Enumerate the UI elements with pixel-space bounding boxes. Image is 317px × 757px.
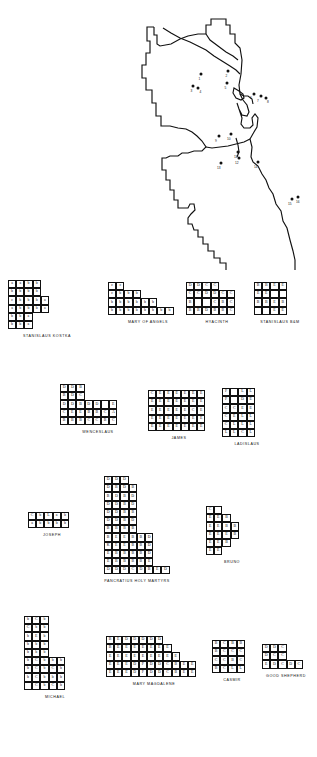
grid-cell: B [85,409,93,417]
grid-cell: E [270,282,278,290]
grid-cell: L [238,388,246,396]
grid-cell: E [206,522,214,530]
grid-cell: b [16,313,24,321]
grid-cell: B [112,525,120,533]
grid-cell: b [32,649,40,657]
parish-diagram-label: STANISLAUS B&M [253,320,306,324]
grid-cell: b [40,657,48,665]
grid-cell: C [212,656,220,664]
grid-cell: b [24,649,32,657]
grid-cell: B [219,298,227,306]
parish-diagram-label: MARY OF ANGELS [107,320,189,324]
grid-cell: b [36,512,44,520]
grid-cell: B [228,640,236,648]
grid-cell: B [137,550,145,558]
parish-diagram-label: CASMIR [212,678,253,682]
grid-cell: b [24,296,32,304]
parish-grid-mary-magdalene: BEDDDDDBEEEEEEEEEEEEEEEEEEEDFDDCBEEEEEDF… [106,636,196,677]
grid-cell: C [227,298,235,306]
grid-cell: E [122,669,130,677]
svg-text:8: 8 [267,100,269,104]
grid-cell: b [24,673,32,681]
grid-cell: B [222,539,230,547]
grid-cell: C [129,566,137,574]
grid-cell: a [41,305,49,313]
grid-cell: B [137,542,145,550]
chicago-map-outline: 1 2 3 4 5 6 7 8 9 10 11 12 13 14 15 16 [140,8,315,270]
grid-cell: b [61,512,69,520]
grid-cell: C [220,640,228,648]
grid-cell: B [212,648,220,656]
grid-cell: B [106,636,114,644]
grid-cell: E [214,531,222,539]
grid-cell: E [153,566,161,574]
map-marker: 13 [217,162,223,171]
grid-cell: E [114,661,122,669]
grid-cell: b [33,280,41,288]
map-marker: 5 [225,82,229,91]
grid-cell: b [61,520,69,528]
grid-cell: D [104,566,112,574]
grid-cell: E [173,423,181,431]
grid-cell: E [114,652,122,660]
grid-cell: A [109,409,117,417]
grid-cell: E [156,406,164,414]
parish-grid-casimir: BCBBBCCCCCBCBCLL [212,640,245,673]
grid-cell: b [24,632,32,640]
grid-cell: B [262,282,270,290]
grid-cell: E [172,652,180,660]
grid-cell: B [93,409,101,417]
grid-cell: b [133,290,141,298]
grid-cell: D [131,669,139,677]
grid-cell: E [155,644,163,652]
grid-cell: C [227,290,235,298]
grid-cell: E [214,522,222,530]
grid-cell: b [24,665,32,673]
grid-cell: E [114,669,122,677]
grid-cell: D [155,669,163,677]
grid-cell: b [16,321,24,329]
grid-cell: b [124,307,132,315]
grid-cell: a [53,512,61,520]
grid-cell: B [129,484,137,492]
grid-cell: b [157,307,165,315]
svg-text:6: 6 [250,96,252,100]
grid-cell: E [180,669,188,677]
grid-cell: E [262,290,270,298]
grid-cell: C [101,409,109,417]
grid-cell: E [181,415,189,423]
grid-cell: b [40,616,48,624]
grid-cell: B [129,558,137,566]
grid-cell: C [76,392,84,400]
grid-cell: C [32,682,40,690]
grid-cell: B [231,522,239,530]
parish-diagram-label: MARY MAGDALENE [105,682,203,686]
grid-cell: B [137,533,145,541]
grid-cell: D [238,396,246,404]
grid-cell: B [104,525,112,533]
grid-cell: B [211,307,219,315]
grid-cell: B [60,417,68,425]
parish-diagram-label: LADISLAUS [222,442,273,446]
grid-cell: E [189,415,197,423]
grid-cell: B [231,531,239,539]
svg-text:11: 11 [234,155,238,159]
grid-cell: E [131,652,139,660]
grid-cell: D [120,476,128,484]
grid-cell: b [40,682,48,690]
grid-cell: C [211,298,219,306]
grid-cell: B [112,558,120,566]
grid-cell: C [24,624,32,632]
svg-text:10: 10 [227,137,231,141]
grid-cell: D [112,492,120,500]
grid-cell: C [60,409,68,417]
grid-cell: C [189,406,197,414]
grid-cell: b [116,298,124,306]
grid-cell: B [129,542,137,550]
grid-cell: b [57,665,65,673]
grid-cell: B [101,417,109,425]
grid-cell: D [131,661,139,669]
grid-cell: C [32,657,40,665]
map-marker-group: 1 2 3 4 5 6 7 8 9 10 11 12 13 14 15 16 [191,70,300,207]
grid-cell: B [60,392,68,400]
